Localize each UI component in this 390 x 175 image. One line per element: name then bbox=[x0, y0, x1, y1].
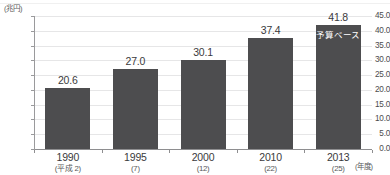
bar-value-label: 20.6 bbox=[38, 74, 98, 86]
x-axis-category-label: 2010(22) bbox=[237, 152, 305, 173]
x-axis-category-label: 1995(7) bbox=[101, 152, 169, 173]
x-axis-year: 1990 bbox=[34, 152, 102, 163]
x-axis-tick-mark bbox=[34, 150, 35, 153]
x-axis-tick-mark bbox=[372, 150, 373, 153]
y-axis-tick-label: 20.0 bbox=[362, 86, 390, 94]
y-axis-tick-mark bbox=[31, 60, 35, 61]
x-axis-year: 1995 bbox=[101, 152, 169, 163]
y-axis-tick-mark bbox=[31, 134, 35, 135]
bar[interactable] bbox=[113, 69, 158, 149]
x-axis-tick-mark bbox=[169, 150, 170, 153]
x-axis-category-label: 2000(12) bbox=[169, 152, 237, 173]
bar[interactable] bbox=[248, 38, 293, 149]
y-axis-line bbox=[34, 16, 35, 149]
x-axis-line bbox=[34, 149, 372, 150]
y-axis-tick-mark bbox=[31, 31, 35, 32]
y-axis-tick-mark bbox=[31, 119, 35, 120]
y-axis-tick-label: 5.0 bbox=[362, 130, 390, 138]
bar-value-label: 30.1 bbox=[173, 46, 233, 58]
x-axis-tick-mark bbox=[304, 150, 305, 153]
bar-chart: (兆円) (年度) 45.040.035.030.025.020.015.010… bbox=[0, 0, 390, 175]
x-axis-year: 2013 bbox=[304, 152, 372, 163]
x-axis-category-label: 2013(25) bbox=[304, 152, 372, 173]
y-axis-tick-label: 30.0 bbox=[362, 56, 390, 64]
y-axis-tick-label: 25.0 bbox=[362, 71, 390, 79]
bar-annotation-label: 予算ベース bbox=[304, 28, 372, 40]
bar[interactable] bbox=[181, 60, 226, 149]
x-axis-year: 2010 bbox=[237, 152, 305, 163]
x-axis-category-label: 1990(平成 2) bbox=[34, 152, 102, 173]
y-axis-tick-mark bbox=[31, 90, 35, 91]
top-rule-divider bbox=[0, 3, 390, 4]
y-axis-tick-mark bbox=[31, 105, 35, 106]
x-axis-year: 2000 bbox=[169, 152, 237, 163]
y-axis-tick-label: 10.0 bbox=[362, 115, 390, 123]
x-axis-era-label: (12) bbox=[169, 164, 237, 173]
x-axis-era-label: (7) bbox=[101, 164, 169, 173]
bar-value-label: 41.8 bbox=[308, 11, 368, 23]
x-axis-era-label: (平成 2) bbox=[34, 164, 102, 173]
x-axis-tick-mark bbox=[102, 150, 103, 153]
bar-value-label: 37.4 bbox=[241, 24, 301, 36]
y-axis-unit-label: (兆円) bbox=[4, 2, 22, 13]
y-axis-tick-label: 35.0 bbox=[362, 42, 390, 50]
x-axis-era-label: (25) bbox=[304, 164, 372, 173]
bar[interactable] bbox=[316, 25, 361, 149]
y-axis-tick-mark bbox=[31, 16, 35, 17]
x-axis-tick-mark bbox=[237, 150, 238, 153]
bar-value-label: 27.0 bbox=[105, 55, 165, 67]
y-axis-tick-mark bbox=[31, 46, 35, 47]
bar[interactable] bbox=[45, 88, 90, 149]
x-axis-era-label: (22) bbox=[237, 164, 305, 173]
y-axis-tick-label: 15.0 bbox=[362, 101, 390, 109]
y-axis-tick-mark bbox=[31, 75, 35, 76]
